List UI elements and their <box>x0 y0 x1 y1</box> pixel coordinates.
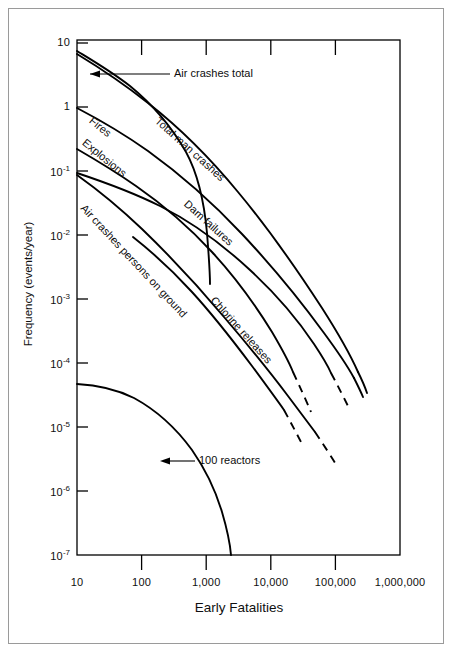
curve-chlorine-releases-dashed-tail <box>284 410 303 446</box>
curve-air-crashes-total <box>77 51 210 284</box>
curve-dam-failures-dashed-tail <box>331 373 349 408</box>
y-tick-label-1: 1 <box>28 100 70 112</box>
annotation-leader-air-crashes-total <box>90 71 170 78</box>
y-tick-label-10: 10 <box>28 36 70 48</box>
y-tick-label-10-1: 10-1 <box>20 164 70 178</box>
curve-air-crashes-ground-dashed-tail <box>315 432 337 466</box>
curve-label-100-reactors: 100 reactors <box>199 454 260 466</box>
x-tick-label-10: 10 <box>47 576 107 588</box>
y-axis-title: Frequency (events/year) <box>22 184 34 384</box>
y-tick-label-10-5: 10-5 <box>20 420 70 434</box>
x-tick-label-100: 100 <box>112 576 172 588</box>
x-tick-label-1000000: 1,000,000 <box>370 576 430 588</box>
y-tick-label-10-7: 10-7 <box>20 548 70 562</box>
x-axis-ticks-top <box>142 40 336 55</box>
x-tick-label-10000: 10,000 <box>241 576 301 588</box>
curve-100-reactors <box>77 384 231 555</box>
curve-explosions <box>77 149 293 372</box>
figure-risk-curves: 10 1 10-1 10-2 10-3 10-4 10-5 10-6 10-7 … <box>0 0 453 654</box>
curve-total-man-crashes <box>77 54 358 372</box>
x-tick-label-100000: 100,000 <box>305 576 365 588</box>
curve-dam-failures <box>77 173 331 373</box>
x-tick-label-1000: 1,000 <box>176 576 236 588</box>
plot-frame <box>77 40 400 555</box>
annotation-leader-100-reactors <box>160 458 195 465</box>
x-axis-ticks <box>142 555 336 570</box>
y-tick-label-10-6: 10-6 <box>20 484 70 498</box>
x-axis-title: Early Fatalities <box>77 600 401 615</box>
curve-label-air-crashes-total: Air crashes total <box>174 67 253 79</box>
